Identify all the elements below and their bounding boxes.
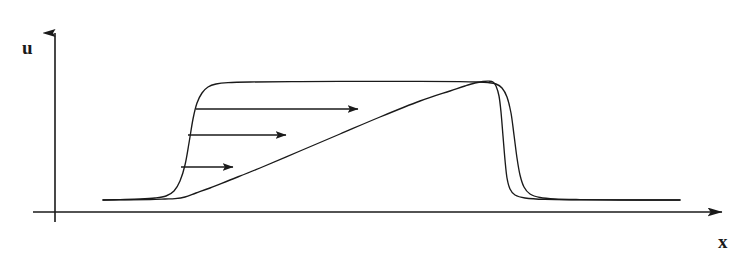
curves-group <box>103 81 680 200</box>
wave-steepening-figure: u x <box>0 0 756 269</box>
y-axis-label: u <box>22 38 33 57</box>
figure-canvas <box>0 0 756 269</box>
axes-group <box>33 33 722 222</box>
x-axis-label: x <box>718 232 728 251</box>
curve-initial-plateau-pulse <box>103 81 680 200</box>
